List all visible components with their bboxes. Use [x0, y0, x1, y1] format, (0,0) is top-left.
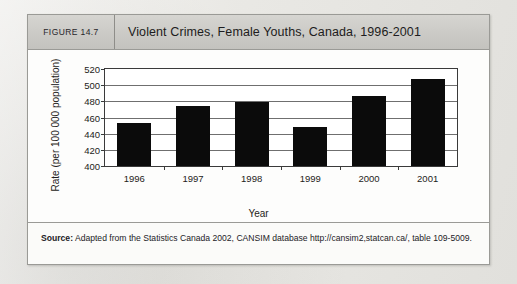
plot-area: 4004204404604805005201996199719981999200… — [104, 68, 458, 167]
x-tick-label: 1999 — [300, 173, 321, 184]
figure-title: Violent Crimes, Female Youths, Canada, 1… — [115, 15, 489, 49]
x-tick-label: 2001 — [417, 173, 438, 184]
gridline — [105, 134, 457, 135]
bar — [352, 96, 386, 166]
gridline — [105, 118, 457, 119]
x-tick-mark — [340, 166, 341, 170]
y-tick-label: 460 — [84, 112, 100, 123]
y-tick-mark — [101, 69, 105, 70]
y-tick-label: 440 — [84, 128, 100, 139]
chart-plot-panel: Rate (per 100 000 population) 4004204404… — [28, 50, 489, 223]
y-tick-mark — [101, 166, 105, 167]
x-tick-label: 1997 — [182, 173, 203, 184]
x-tick-mark — [281, 166, 282, 170]
y-tick-mark — [101, 118, 105, 119]
gridline — [105, 150, 457, 151]
bar — [293, 127, 327, 166]
figure-number-label: FIGURE 14.7 — [28, 15, 115, 49]
x-tick-label: 1998 — [241, 173, 262, 184]
bar — [235, 102, 269, 166]
x-tick-label: 1996 — [124, 173, 145, 184]
bar — [411, 79, 445, 166]
bar — [117, 123, 151, 166]
x-tick-mark — [222, 166, 223, 170]
x-axis-title: Year — [28, 208, 489, 219]
gridline — [105, 85, 457, 86]
y-tick-mark — [101, 85, 105, 86]
figure-container: FIGURE 14.7 Violent Crimes, Female Youth… — [27, 14, 490, 265]
y-tick-label: 480 — [84, 96, 100, 107]
y-tick-mark — [101, 134, 105, 135]
gridline — [105, 101, 457, 102]
y-tick-label: 400 — [84, 161, 100, 172]
source-label: Source: — [41, 233, 73, 243]
y-tick-label: 420 — [84, 144, 100, 155]
x-tick-mark — [398, 166, 399, 170]
x-tick-label: 2000 — [358, 173, 379, 184]
x-tick-mark — [164, 166, 165, 170]
source-text: Adapted from the Statistics Canada 2002,… — [73, 233, 472, 243]
y-tick-label: 520 — [84, 64, 100, 75]
figure-header: FIGURE 14.7 Violent Crimes, Female Youth… — [28, 15, 489, 50]
y-tick-mark — [101, 150, 105, 151]
bar — [176, 106, 210, 166]
y-tick-label: 500 — [84, 80, 100, 91]
y-tick-mark — [101, 101, 105, 102]
source-note: Source: Adapted from the Statistics Cana… — [28, 223, 489, 245]
